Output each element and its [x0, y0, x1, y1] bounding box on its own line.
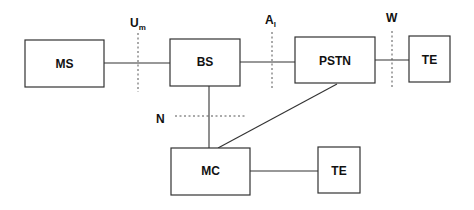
node-te-bottom-label: TE [331, 164, 346, 178]
node-ms: MS [25, 40, 104, 87]
node-mc: MC [171, 148, 250, 195]
interface-n-label: N [156, 112, 165, 126]
node-te-top: TE [409, 36, 450, 82]
node-te-bottom: TE [318, 147, 360, 193]
node-bs-label: BS [197, 55, 214, 69]
node-te-top-label: TE [422, 53, 437, 67]
interface-al-label: Al [265, 13, 276, 29]
node-bs: BS [170, 39, 240, 86]
node-pstn: PSTN [295, 37, 375, 83]
node-pstn-label: PSTN [319, 54, 351, 68]
node-mc-label: MC [201, 164, 220, 178]
link-pstn-mc [218, 84, 337, 148]
interface-w-label: W [386, 11, 398, 25]
node-ms-label: MS [56, 57, 74, 71]
interface-um-label: Um [130, 16, 146, 32]
network-diagram: MS BS PSTN TE MC TE Um Al W N [0, 0, 474, 210]
